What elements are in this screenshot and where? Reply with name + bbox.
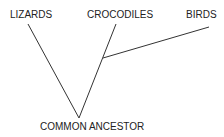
branch-birds <box>103 27 209 58</box>
taxon-label-crocodiles: CROCODILES <box>87 9 153 20</box>
cladogram-diagram: LIZARDS CROCODILES BIRDS COMMON ANCESTOR <box>0 0 224 137</box>
branch-lizards <box>28 24 79 118</box>
branch-crocodiles <box>79 24 116 118</box>
cladogram-branches <box>0 0 224 137</box>
taxon-label-birds: BIRDS <box>186 9 217 20</box>
root-label-common-ancestor: COMMON ANCESTOR <box>40 121 144 132</box>
taxon-label-lizards: LIZARDS <box>10 9 52 20</box>
